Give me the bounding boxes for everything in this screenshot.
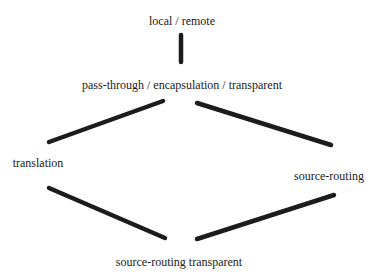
node-pass-through-encapsulation-transparent: pass-through / encapsulation / transpare… [82,79,282,91]
edge-pass-through-to-source-routing [197,103,331,145]
lattice-diagram: local / remote pass-through / encapsulat… [0,0,386,280]
node-source-routing: source-routing [294,170,364,182]
edges-layer [0,0,386,280]
node-local-remote: local / remote [149,15,215,27]
node-source-routing-transparent: source-routing transparent [116,256,242,268]
edge-pass-through-to-translation [49,101,163,142]
edge-source-routing-to-source-routing-transparent [197,195,334,239]
edge-translation-to-source-routing-transparent [49,188,165,238]
node-translation: translation [13,157,64,169]
